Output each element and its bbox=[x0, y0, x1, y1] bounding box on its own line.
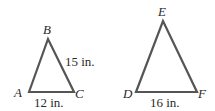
vertex-label-a: A bbox=[13, 85, 22, 100]
similar-triangles-diagram: B A C 15 in. 12 in. E D F 16 in. bbox=[0, 0, 215, 111]
triangle-def-shape bbox=[136, 21, 197, 92]
triangle-abc: B A C 15 in. 12 in. bbox=[13, 22, 95, 110]
side-length-bc: 15 in. bbox=[65, 54, 95, 69]
vertex-label-b: B bbox=[43, 22, 51, 37]
vertex-label-f: F bbox=[197, 86, 207, 101]
vertex-label-e: E bbox=[157, 4, 166, 19]
triangle-def: E D F 16 in. bbox=[122, 4, 207, 110]
side-length-df: 16 in. bbox=[150, 95, 180, 110]
side-length-ac: 12 in. bbox=[34, 95, 64, 110]
vertex-label-d: D bbox=[122, 86, 133, 101]
vertex-label-c: C bbox=[75, 86, 84, 101]
